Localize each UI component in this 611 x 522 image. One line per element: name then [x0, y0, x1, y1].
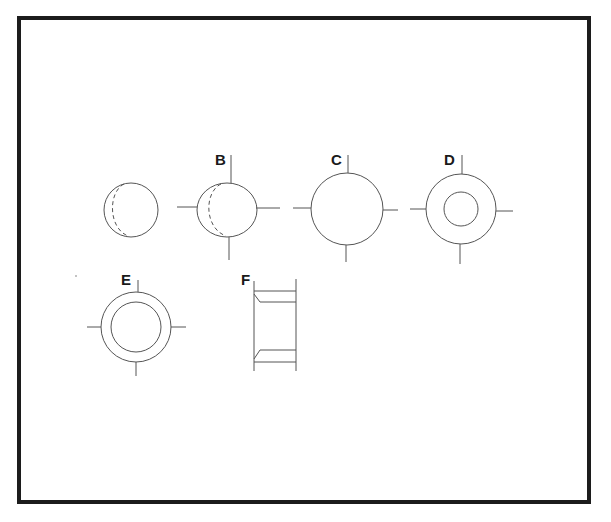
circle-outline	[311, 173, 383, 245]
inner-circle	[444, 192, 478, 226]
label-c: C	[331, 152, 342, 167]
label-b: B	[215, 152, 226, 167]
label-e: E	[121, 272, 131, 287]
inner-circle	[111, 302, 161, 352]
figure-d	[410, 155, 513, 264]
dashed-crescent	[209, 184, 226, 236]
figures-svg	[0, 0, 611, 522]
figure-unlabeled	[104, 183, 158, 237]
outer-circle	[426, 174, 496, 244]
stray-dot	[75, 275, 77, 277]
figure-f	[254, 279, 296, 371]
figure-e	[87, 280, 186, 376]
label-f: F	[241, 272, 250, 287]
bottom-flange	[254, 350, 296, 359]
sphere-outline	[197, 183, 257, 237]
dashed-crescent	[112, 184, 128, 236]
figure-c	[293, 155, 398, 262]
figure-b	[177, 155, 280, 260]
label-d: D	[444, 152, 455, 167]
top-flange	[254, 294, 296, 302]
diagram-canvas: B C D E F	[0, 0, 611, 522]
